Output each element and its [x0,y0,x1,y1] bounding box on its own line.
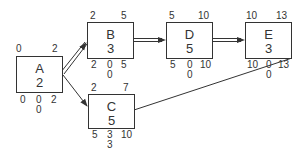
node-b-ls: 2 [91,60,97,70]
node-c-es: 2 [91,83,97,93]
node-c[interactable]: C 5 [88,94,135,129]
node-d-ls: 5 [170,60,176,70]
node-b-ef: 5 [121,11,127,21]
node-a-lf: 2 [51,95,57,105]
node-d-ef: 10 [198,11,209,21]
node-a-ff: 0 [36,105,42,115]
node-e-lf: 13 [278,60,289,70]
node-b-ff: 0 [107,70,113,80]
node-d-name: D [167,28,212,42]
node-d-ff: 0 [187,70,193,80]
node-c-name: C [89,100,134,114]
node-c-lf: 10 [121,130,132,140]
node-a-duration: 2 [17,76,62,90]
node-d-es: 5 [169,11,175,21]
node-e[interactable]: E 3 [245,22,292,59]
node-b-duration: 3 [88,42,133,56]
node-c-ls: 5 [92,130,98,140]
edge-d-e [213,39,244,42]
node-e-duration: 3 [246,42,291,56]
node-b-es: 2 [90,11,96,21]
node-b-name: B [88,28,133,42]
node-e-ef: 13 [276,11,287,21]
node-c-ff: 3 [107,140,113,150]
node-a-es: 0 [16,44,22,54]
node-a-ls: 0 [20,95,26,105]
node-d-duration: 5 [167,42,212,56]
node-a-ef: 2 [52,44,58,54]
node-e-es: 10 [246,11,257,21]
node-e-ls: 10 [247,60,258,70]
node-c-duration: 5 [89,114,134,128]
node-d-lf: 10 [200,60,211,70]
edge-a-c [63,75,87,106]
node-b-lf: 5 [121,60,127,70]
edge-b-d [133,39,165,42]
node-a[interactable]: A 2 [16,56,63,93]
node-d[interactable]: D 5 [166,22,213,59]
node-c-ef: 7 [123,83,129,93]
node-b[interactable]: B 3 [87,22,134,59]
node-e-name: E [246,28,291,42]
node-a-name: A [17,62,62,76]
node-e-ff: 0 [266,70,272,80]
edge-a-b [61,42,87,74]
